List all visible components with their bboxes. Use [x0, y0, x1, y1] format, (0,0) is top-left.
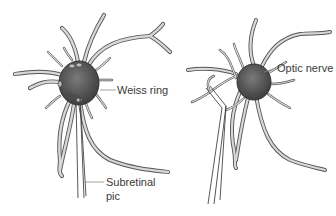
left-panel: [15, 15, 170, 198]
label-subretinal: Subretinal: [106, 176, 156, 189]
right-instrument: [206, 86, 226, 204]
retina-diagram: [0, 0, 336, 216]
label-optic-nerve: Optic nerve: [277, 62, 333, 75]
label-weiss-ring: Weiss ring: [117, 84, 168, 97]
label-pic: pic: [106, 190, 120, 203]
right-panel: [188, 20, 330, 204]
right-optic-disc: [237, 64, 271, 100]
